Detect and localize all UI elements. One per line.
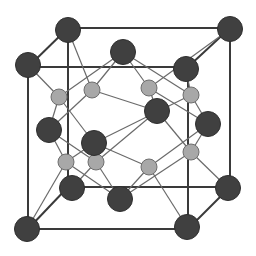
small-atom bbox=[141, 80, 157, 96]
large-atom bbox=[60, 176, 85, 201]
small-atom bbox=[58, 154, 74, 170]
small-atom bbox=[183, 144, 199, 160]
large-atom bbox=[216, 176, 241, 201]
large-atom bbox=[108, 187, 133, 212]
large-atom bbox=[174, 57, 199, 82]
bond-line bbox=[94, 95, 191, 143]
large-atom bbox=[56, 18, 81, 43]
large-atom bbox=[111, 40, 136, 65]
large-atom bbox=[145, 99, 170, 124]
large-atom bbox=[82, 131, 107, 156]
small-atom bbox=[88, 154, 104, 170]
large-atom bbox=[218, 17, 243, 42]
large-atom bbox=[16, 53, 41, 78]
large-atom bbox=[196, 112, 221, 137]
small-atom bbox=[183, 87, 199, 103]
crystal-structure-diagram bbox=[0, 0, 256, 256]
large-atom bbox=[175, 215, 200, 240]
small-atom bbox=[51, 89, 67, 105]
small-atom bbox=[84, 82, 100, 98]
small-atom bbox=[141, 159, 157, 175]
large-atom bbox=[37, 118, 62, 143]
large-atom bbox=[15, 217, 40, 242]
